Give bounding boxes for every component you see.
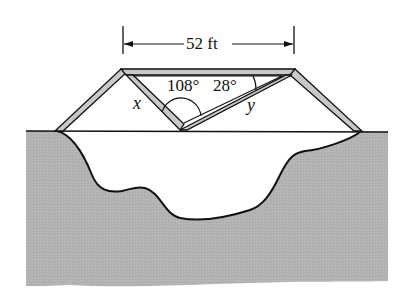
angle-108-label: 108° — [167, 76, 199, 96]
bridge-diagram: 52 ft 108° 28° x y — [0, 0, 404, 299]
angle-28-label: 28° — [213, 76, 237, 96]
ground-line — [26, 131, 388, 132]
span-label: 52 ft — [186, 34, 218, 54]
ground — [26, 131, 388, 286]
side-x-label: x — [133, 93, 141, 113]
truss — [55, 69, 362, 131]
side-y-label: y — [247, 95, 255, 115]
angle-arc-28 — [253, 76, 256, 90]
